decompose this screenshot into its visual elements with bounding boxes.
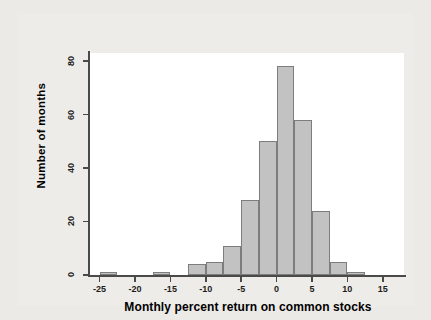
histogram-bar — [312, 211, 330, 275]
x-axis-tick-label: 10 — [332, 284, 362, 294]
histogram-bar — [347, 272, 365, 275]
x-axis-tick — [170, 276, 172, 282]
x-axis-tick-label: -20 — [120, 284, 150, 294]
histogram-bar — [277, 66, 295, 275]
histogram-bar — [100, 272, 118, 275]
histogram-bar — [188, 264, 206, 275]
x-axis-tick-label: 0 — [262, 284, 292, 294]
y-axis-tick — [83, 60, 89, 62]
y-axis-tick-label: 40 — [61, 161, 81, 175]
x-axis-tick-label: -25 — [85, 284, 115, 294]
x-axis-tick — [311, 276, 313, 282]
y-tick-text: 20 — [67, 216, 76, 226]
x-axis-tick-label: -15 — [155, 284, 185, 294]
x-axis-tick — [347, 276, 349, 282]
y-axis-tick — [83, 221, 89, 223]
y-axis-label: Number of months — [35, 83, 47, 188]
x-axis-tick-label: -5 — [226, 284, 256, 294]
x-axis-label: Monthly percent return on common stocks — [89, 300, 407, 314]
y-axis-tick — [83, 114, 89, 116]
histogram-bar — [330, 262, 348, 275]
y-axis-tick — [83, 274, 89, 276]
histogram-figure: 020406080 -25-20-15-10-5051015 Number of… — [17, 13, 414, 306]
y-tick-text: 60 — [67, 110, 76, 120]
y-tick-text: 0 — [67, 272, 76, 277]
x-axis-tick-label: 5 — [297, 284, 327, 294]
y-tick-text: 80 — [67, 56, 76, 66]
histogram-bar — [153, 272, 171, 275]
x-axis-tick — [99, 276, 101, 282]
histogram-bar — [206, 262, 224, 275]
histogram-bar — [294, 120, 312, 275]
x-axis-tick — [240, 276, 242, 282]
x-axis-tick-label: -10 — [191, 284, 221, 294]
x-axis-tick — [276, 276, 278, 282]
y-axis-tick-label: 60 — [61, 108, 81, 122]
y-axis-tick-label: 0 — [61, 268, 81, 282]
x-axis-tick-label: 15 — [368, 284, 398, 294]
histogram-bar — [241, 200, 259, 275]
y-tick-text: 40 — [67, 163, 76, 173]
x-axis-tick — [382, 276, 384, 282]
y-axis-line — [88, 51, 90, 277]
histogram-bar — [223, 246, 241, 275]
y-axis-tick-label: 80 — [61, 54, 81, 68]
x-axis-tick — [205, 276, 207, 282]
histogram-bar — [259, 141, 277, 275]
y-axis-tick-label: 20 — [61, 215, 81, 229]
x-axis-tick — [134, 276, 136, 282]
y-axis-tick — [83, 167, 89, 169]
